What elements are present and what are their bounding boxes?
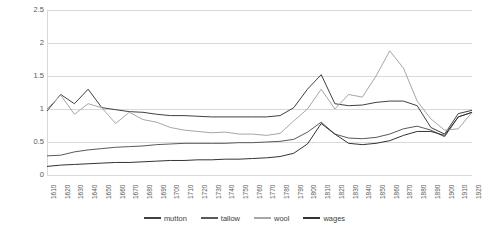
- x-tick-label: 1820: [338, 185, 345, 199]
- legend-label: wages: [323, 214, 345, 223]
- x-tick-label: 1770: [269, 185, 276, 199]
- x-tick-label: 1690: [160, 185, 167, 199]
- x-tick-label: 1650: [105, 185, 112, 199]
- legend-item-wool[interactable]: wool: [254, 214, 289, 223]
- x-tick-label: 1720: [201, 185, 208, 199]
- y-tick-label: 2: [4, 39, 44, 47]
- x-tick-label: 1790: [297, 185, 304, 199]
- x-tick-label: 1680: [146, 185, 153, 199]
- x-tick-label: 1810: [324, 185, 331, 199]
- x-tick-label: 1830: [352, 185, 359, 199]
- x-tick-label: 1860: [393, 185, 400, 199]
- legend-swatch-icon: [144, 217, 161, 219]
- x-tick-label: 1920: [475, 185, 482, 199]
- x-tick-label: 1620: [64, 185, 71, 199]
- x-tick-label: 1840: [365, 185, 372, 199]
- y-tick-label: 0.5: [4, 138, 44, 146]
- y-tick-label: 0: [4, 171, 44, 179]
- x-tick-label: 1610: [50, 185, 57, 199]
- legend-swatch-icon: [254, 217, 271, 219]
- line-chart: 00.511.522.5 161016201630164016501660167…: [0, 0, 489, 233]
- x-tick-label: 1710: [187, 185, 194, 199]
- legend-label: mutton: [164, 214, 187, 223]
- y-axis-labels: 00.511.522.5: [0, 10, 44, 175]
- x-tick-label: 1750: [242, 185, 249, 199]
- y-tick-label: 2.5: [4, 6, 44, 14]
- x-tick-label: 1660: [119, 185, 126, 199]
- x-tick-label: 1900: [448, 185, 455, 199]
- legend-item-wages[interactable]: wages: [303, 214, 345, 223]
- series-container: [47, 10, 472, 175]
- legend-swatch-icon: [303, 217, 320, 219]
- y-tick-label: 1: [4, 105, 44, 113]
- legend-item-tallow[interactable]: tallow: [201, 214, 240, 223]
- x-tick-label: 1870: [406, 185, 413, 199]
- x-tick-label: 1630: [77, 185, 84, 199]
- x-tick-label: 1700: [173, 185, 180, 199]
- series-line-mutton: [47, 75, 472, 134]
- legend-item-mutton[interactable]: mutton: [144, 214, 187, 223]
- x-tick-label: 1780: [283, 185, 290, 199]
- grid-line: [47, 175, 472, 176]
- y-tick-label: 1.5: [4, 72, 44, 80]
- x-tick-label: 1850: [379, 185, 386, 199]
- x-tick-label: 1670: [132, 185, 139, 199]
- x-tick-label: 1740: [228, 185, 235, 199]
- x-tick-label: 1880: [420, 185, 427, 199]
- legend-label: tallow: [221, 214, 240, 223]
- x-tick-label: 1640: [91, 185, 98, 199]
- x-tick-label: 1890: [434, 185, 441, 199]
- x-tick-label: 1800: [310, 185, 317, 199]
- legend-label: wool: [274, 214, 289, 223]
- series-line-wool: [47, 51, 472, 135]
- series-line-wages: [47, 112, 472, 166]
- legend-swatch-icon: [201, 217, 218, 219]
- plot-area: [47, 10, 472, 175]
- x-tick-label: 1910: [461, 185, 468, 199]
- chart-legend: muttontallowwoolwages: [0, 210, 489, 226]
- x-tick-label: 1760: [256, 185, 263, 199]
- x-tick-label: 1730: [215, 185, 222, 199]
- x-axis-labels: 1610162016301640165016601670168016901700…: [47, 177, 472, 203]
